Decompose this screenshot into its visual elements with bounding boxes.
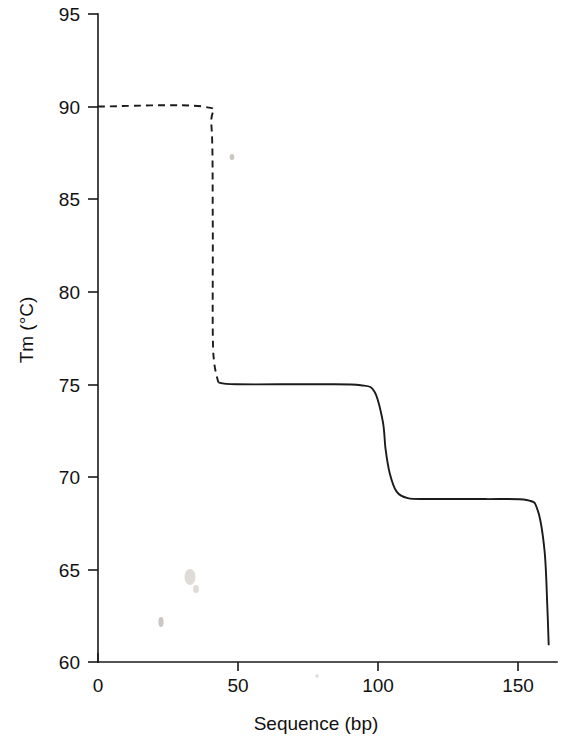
x-tick-label-50: 50: [227, 675, 248, 696]
scan-speck-mid: [185, 569, 196, 585]
y-tick-label-65: 65: [59, 560, 80, 581]
scan-speck-upper: [230, 154, 235, 160]
y-tick-label-80: 80: [59, 282, 80, 303]
y-tick-label-95: 95: [59, 4, 80, 25]
tm-sequence-chart: 95 90 85 80 75 70 65 60 Tm (°C) 0 50 100…: [0, 0, 563, 750]
x-axis-title: Sequence (bp): [254, 713, 379, 734]
y-tick-label-90: 90: [59, 97, 80, 118]
x-tick-label-100: 100: [362, 675, 394, 696]
scan-speck-lower: [158, 617, 163, 627]
y-tick-label-85: 85: [59, 189, 80, 210]
y-tick-label-75: 75: [59, 375, 80, 396]
y-axis-title: Tm (°C): [16, 297, 37, 364]
chart-background: [0, 0, 563, 750]
scan-speck-axis: [315, 674, 319, 678]
figure-container: 95 90 85 80 75 70 65 60 Tm (°C) 0 50 100…: [0, 0, 563, 750]
x-tick-label-0: 0: [93, 675, 104, 696]
y-tick-label-70: 70: [59, 467, 80, 488]
y-tick-label-60: 60: [59, 652, 80, 673]
scan-speck-mid-2: [193, 585, 199, 593]
x-tick-label-150: 150: [502, 675, 534, 696]
